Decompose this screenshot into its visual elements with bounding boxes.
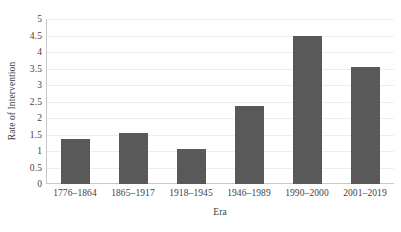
bar-chart: Rate of Intervention 54.543.532.521.510.… [0,0,401,232]
bar-slot [278,19,336,184]
x-axis-tick-label: 1990–2000 [278,188,336,198]
y-axis-tick-label: 4 [37,47,42,57]
bar-slot [336,19,394,184]
bar-series [46,19,394,184]
bar[interactable] [119,133,148,184]
y-axis-tick-label: 4.5 [30,31,42,41]
y-axis-tick-label: 1.5 [30,130,42,140]
bar-slot [46,19,104,184]
x-axis-tick-label: 2001–2019 [336,188,394,198]
bar-slot [220,19,278,184]
x-axis-title: Era [46,207,394,217]
bar[interactable] [351,67,380,184]
bar-slot [104,19,162,184]
bar[interactable] [235,106,264,184]
bar[interactable] [293,36,322,185]
y-axis-tick-label: 0.5 [30,163,42,173]
bar[interactable] [177,149,206,184]
x-axis-tick-labels: 1776–18641865–19171918–19451946–19891990… [46,188,394,198]
y-axis-tick-label: 2.5 [30,97,42,107]
x-axis-tick-label: 1946–1989 [220,188,278,198]
y-axis-tick-label: 3 [37,80,42,90]
plot-area [46,19,394,184]
y-axis-tick-label: 0 [37,179,42,189]
y-axis-tick-labels: 54.543.532.521.510.50 [18,19,42,184]
x-axis-tick-label: 1918–1945 [162,188,220,198]
x-axis-tick-label: 1865–1917 [104,188,162,198]
y-axis-tick-label: 3.5 [30,64,42,74]
y-axis-tick-label: 5 [37,14,42,24]
x-axis-tick-label: 1776–1864 [46,188,104,198]
y-axis-tick-label: 2 [37,113,42,123]
bar[interactable] [61,139,90,184]
y-axis-tick-label: 1 [37,146,42,156]
bar-slot [162,19,220,184]
